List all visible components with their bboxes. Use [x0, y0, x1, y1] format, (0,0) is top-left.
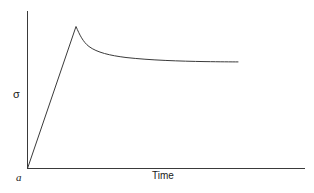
y-axis-label: σ: [13, 89, 20, 100]
x-axis-label: Time: [152, 171, 174, 181]
chart-canvas: [0, 0, 314, 193]
origin-annotation-label: a: [16, 172, 22, 183]
stress-time-chart: σ Time a: [0, 0, 314, 193]
stress-relaxation-curve: [28, 27, 239, 169]
